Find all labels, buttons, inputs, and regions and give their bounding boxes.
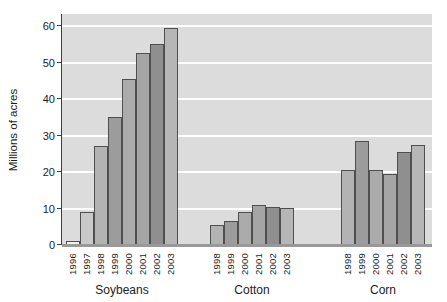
x-tick-label-corn-1999: 1999 bbox=[356, 253, 368, 285]
x-axis-line bbox=[62, 244, 432, 247]
bar-corn-2003 bbox=[411, 145, 425, 245]
group-label-soybeans: Soybeans bbox=[62, 283, 182, 297]
bar-cotton-2002 bbox=[266, 207, 280, 245]
x-tick-label-soybeans-1997: 1997 bbox=[81, 253, 93, 285]
group-label-cotton: Cotton bbox=[192, 283, 312, 297]
y-tick-label-50: 50 bbox=[15, 57, 55, 69]
x-tick-label-cotton-2000: 2000 bbox=[239, 253, 251, 285]
x-tick-label-soybeans-1999: 1999 bbox=[109, 253, 121, 285]
x-tick-label-soybeans-2003: 2003 bbox=[165, 253, 177, 285]
bar-corn-2000 bbox=[369, 170, 383, 245]
x-tick-label-cotton-2001: 2001 bbox=[253, 253, 265, 285]
y-tick-mark-20 bbox=[57, 171, 61, 172]
x-tick-label-soybeans-2000: 2000 bbox=[123, 253, 135, 285]
y-tick-label-10: 10 bbox=[15, 203, 55, 215]
x-tick-label-soybeans-1998: 1998 bbox=[95, 253, 107, 285]
x-tick-label-corn-2002: 2002 bbox=[398, 253, 410, 285]
plot-area bbox=[62, 14, 432, 245]
gridline-50 bbox=[62, 62, 432, 64]
bar-cotton-1999 bbox=[224, 221, 238, 245]
bar-cotton-2001 bbox=[252, 205, 266, 245]
group-label-corn: Corn bbox=[323, 283, 443, 297]
bar-cotton-1998 bbox=[210, 225, 224, 245]
bar-chart: Millions of acres 0102030405060199619971… bbox=[0, 0, 447, 302]
y-tick-label-20: 20 bbox=[15, 166, 55, 178]
y-tick-mark-40 bbox=[57, 98, 61, 99]
bar-corn-1999 bbox=[355, 141, 369, 245]
y-axis-line bbox=[61, 14, 62, 245]
bar-soybeans-2001 bbox=[136, 53, 150, 245]
x-tick-label-corn-2001: 2001 bbox=[384, 253, 396, 285]
y-tick-label-40: 40 bbox=[15, 93, 55, 105]
bar-cotton-2000 bbox=[238, 212, 252, 245]
bar-corn-2002 bbox=[397, 152, 411, 245]
y-tick-mark-60 bbox=[57, 25, 61, 26]
y-tick-label-60: 60 bbox=[15, 20, 55, 32]
y-tick-mark-0 bbox=[57, 244, 61, 245]
x-tick-label-cotton-2002: 2002 bbox=[267, 253, 279, 285]
x-tick-label-cotton-2003: 2003 bbox=[281, 253, 293, 285]
y-tick-mark-50 bbox=[57, 62, 61, 63]
x-tick-label-cotton-1998: 1998 bbox=[211, 253, 223, 285]
y-tick-mark-30 bbox=[57, 135, 61, 136]
y-tick-label-30: 30 bbox=[15, 130, 55, 142]
y-tick-mark-10 bbox=[57, 208, 61, 209]
bar-cotton-2003 bbox=[280, 208, 294, 245]
x-tick-label-soybeans-2001: 2001 bbox=[137, 253, 149, 285]
bar-corn-1998 bbox=[341, 170, 355, 245]
x-tick-label-corn-2000: 2000 bbox=[370, 253, 382, 285]
bar-soybeans-1997 bbox=[80, 212, 94, 245]
bar-soybeans-1999 bbox=[108, 117, 122, 245]
bar-soybeans-2003 bbox=[164, 28, 178, 245]
gridline-40 bbox=[62, 98, 432, 100]
x-tick-label-cotton-1999: 1999 bbox=[225, 253, 237, 285]
bar-soybeans-1998 bbox=[94, 146, 108, 245]
gridline-60 bbox=[62, 25, 432, 27]
x-tick-label-soybeans-2002: 2002 bbox=[151, 253, 163, 285]
x-tick-label-corn-2003: 2003 bbox=[412, 253, 424, 285]
x-tick-label-soybeans-1996: 1996 bbox=[67, 253, 79, 285]
bar-corn-2001 bbox=[383, 174, 397, 245]
x-tick-label-corn-1998: 1998 bbox=[342, 253, 354, 285]
bar-soybeans-2000 bbox=[122, 79, 136, 245]
bar-soybeans-2002 bbox=[150, 44, 164, 245]
y-tick-label-0: 0 bbox=[15, 239, 55, 251]
